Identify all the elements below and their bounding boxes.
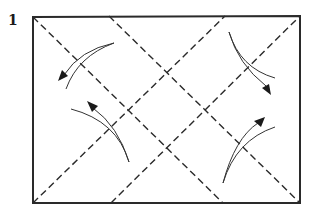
fold-arrow-bottom-right-icon bbox=[223, 117, 275, 183]
fold-line-diag-bottom-to-tr bbox=[111, 16, 300, 203]
fold-arrow-bottom-left-icon bbox=[71, 101, 129, 162]
fold-line-diag-bl-to-top bbox=[33, 16, 225, 203]
fold-diagram bbox=[0, 0, 315, 216]
